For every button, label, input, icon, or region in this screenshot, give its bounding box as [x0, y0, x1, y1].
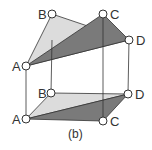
- label-bottom-c: C: [110, 114, 119, 129]
- label-top-c: C: [110, 7, 119, 22]
- label-top-a: A: [12, 59, 21, 74]
- quadrilateral-diagram: B C D A B D A C (b): [0, 0, 152, 150]
- vertex-top-d: [125, 36, 133, 44]
- vertex-bottom-a: [22, 115, 30, 123]
- vertex-bottom-b: [47, 89, 55, 97]
- label-bottom-b: B: [38, 86, 47, 101]
- vertex-bottom-d: [124, 90, 132, 98]
- label-bottom-a: A: [12, 112, 21, 127]
- vertex-top-a: [22, 62, 30, 70]
- label-top-b: B: [38, 7, 47, 22]
- label-top-d: D: [136, 33, 145, 48]
- label-bottom-d: D: [135, 87, 144, 102]
- vertex-top-c: [99, 10, 107, 18]
- vertex-top-b: [48, 10, 56, 18]
- vertex-bottom-c: [99, 117, 107, 125]
- vertical-line-d: [128, 40, 129, 94]
- figure-caption: (b): [68, 127, 83, 141]
